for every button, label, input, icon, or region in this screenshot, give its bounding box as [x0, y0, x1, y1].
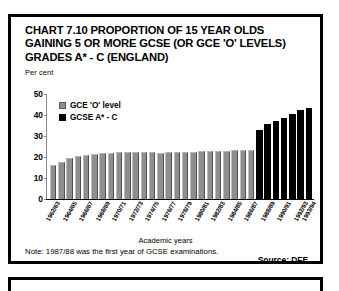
- chart-title: CHART 7.10 PROPORTION OF 15 YEAR OLDS GA…: [25, 24, 315, 64]
- y-axis-unit-label: Per cent: [25, 68, 53, 77]
- y-tick-mark: [44, 178, 46, 179]
- chart-source: Source: DFE: [258, 255, 308, 265]
- bar-gce-1973/74: [141, 152, 148, 199]
- y-tick-label: 20: [34, 152, 43, 162]
- legend-label-gcse: GCSE A* - C: [70, 113, 117, 122]
- x-tick-label: 1978/79: [176, 200, 193, 222]
- legend-item-gcse: GCSE A* - C: [59, 113, 121, 122]
- bar-gcse-1990/91: [281, 118, 288, 199]
- x-tick-label: 1980/81: [193, 200, 210, 222]
- bar-gce-1965/66: [75, 156, 82, 199]
- chart-note: Note: 1987/88 was the first year of GCSE…: [25, 247, 218, 256]
- bar-gce-1985/86: [240, 150, 247, 199]
- legend-swatch-gce-icon: [59, 102, 66, 109]
- bar-gcse-1987/88: [256, 130, 263, 199]
- chart-figure-inner: CHART 7.10 PROPORTION OF 15 YEAR OLDS GA…: [11, 17, 320, 261]
- x-tick-label: 1988/89: [259, 200, 276, 222]
- y-tick-label: 10: [34, 173, 43, 183]
- x-tick-label: 1968/69: [94, 200, 111, 222]
- bar-gcse-1991/92: [289, 114, 296, 199]
- x-tick-label: 1966/67: [77, 200, 94, 222]
- x-tick-label: 1972/73: [127, 200, 144, 222]
- y-tick-mark: [44, 115, 46, 116]
- bar-gce-1968/69: [99, 153, 106, 199]
- y-tick-label: 0: [38, 194, 43, 204]
- bar-gce-1986/87: [248, 150, 255, 199]
- x-tick-label: 1970/71: [110, 200, 127, 222]
- bar-gce-1980/81: [198, 151, 205, 199]
- bar-gce-1979/80: [190, 152, 197, 199]
- bar-gcse-1988/89: [264, 124, 271, 199]
- legend-swatch-gcse-icon: [59, 114, 66, 121]
- y-tick-mark: [44, 157, 46, 158]
- legend-item-gce: GCE 'O' level: [59, 101, 121, 110]
- bar-gcse-1993/94: [306, 108, 313, 199]
- x-tick-label: 1974/75: [143, 200, 160, 222]
- bar-gce-1971/72: [124, 152, 131, 199]
- x-axis-title: Academic years: [11, 236, 320, 245]
- legend-label-gce: GCE 'O' level: [70, 101, 121, 110]
- bar-gce-1963/64: [58, 162, 65, 199]
- chart-title-line-1: CHART 7.10 PROPORTION OF 15 YEAR OLDS: [25, 24, 315, 37]
- bar-gce-1981/82: [207, 151, 214, 199]
- x-tick-label: 1976/77: [160, 200, 177, 222]
- bar-gcse-1992/93: [297, 110, 304, 199]
- bar-gce-1984/85: [231, 150, 238, 199]
- x-axis-tick-labels: 1962/631964/651966/671968/691970/711972/…: [46, 200, 314, 236]
- bar-gce-1972/73: [132, 152, 139, 199]
- bar-gce-1964/65: [66, 158, 73, 199]
- chart-title-line-3: GRADES A* - C (ENGLAND): [25, 51, 315, 64]
- bar-gce-1975/76: [157, 153, 164, 199]
- bar-gce-1976/77: [165, 152, 172, 199]
- bar-gce-1974/75: [149, 152, 156, 199]
- y-tick-label: 50: [34, 89, 43, 99]
- y-tick-label: 30: [34, 131, 43, 141]
- bar-gce-1978/79: [182, 152, 189, 199]
- chart-title-line-2: GAINING 5 OR MORE GCSE (OR GCE 'O' LEVEL…: [25, 37, 315, 50]
- x-tick-label: 1984/85: [226, 200, 243, 222]
- chart-figure-box: CHART 7.10 PROPORTION OF 15 YEAR OLDS GA…: [8, 14, 323, 264]
- bar-gce-1970/71: [116, 152, 123, 199]
- x-tick-label: 1990/91: [275, 200, 292, 222]
- x-tick-label: 1986/87: [242, 200, 259, 222]
- chart-legend: GCE 'O' levelGCSE A* - C: [59, 101, 121, 122]
- bar-gce-1966/67: [83, 155, 90, 199]
- bar-gce-1982/83: [215, 151, 222, 200]
- bar-gce-1969/70: [108, 153, 115, 199]
- bar-gce-1977/78: [174, 152, 181, 199]
- bar-gce-1967/68: [91, 154, 98, 199]
- next-figure-box-partial: [8, 277, 323, 291]
- y-tick-label: 40: [34, 110, 43, 120]
- y-tick-mark: [44, 136, 46, 137]
- bar-gce-1983/84: [223, 151, 230, 199]
- bar-gce-1962/63: [50, 165, 57, 199]
- x-tick-label: 1962/63: [44, 200, 61, 222]
- x-tick-label: 1982/83: [209, 200, 226, 222]
- bar-gcse-1989/90: [273, 121, 280, 199]
- y-tick-mark: [44, 94, 46, 95]
- x-tick-label: 1964/65: [61, 200, 78, 222]
